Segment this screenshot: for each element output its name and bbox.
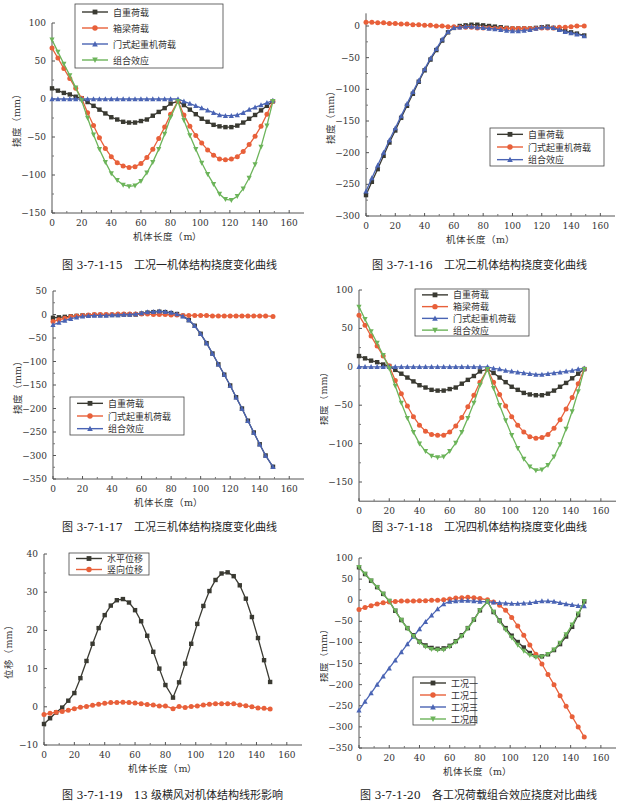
marker-circle-icon <box>187 124 192 129</box>
x-tick-label: 40 <box>99 750 111 760</box>
legend-label: 门式起重机荷载 <box>108 411 171 422</box>
legend-label: 竖向位移 <box>107 564 143 575</box>
marker-square-icon <box>375 360 379 364</box>
marker-square-icon <box>151 114 155 118</box>
marker-circle-icon <box>249 704 254 709</box>
marker-triangle-down-icon <box>557 442 562 447</box>
chart-svg: 020406080100120140160403020100−10机体长度（m）… <box>0 540 320 780</box>
marker-square-icon <box>115 598 119 602</box>
legend-label: 自重荷载 <box>113 7 149 18</box>
legend-label: 箱梁荷载 <box>453 301 489 312</box>
marker-square-icon <box>534 393 538 397</box>
marker-circle-icon <box>375 602 380 607</box>
marker-circle-icon <box>239 313 244 318</box>
marker-circle-icon <box>509 414 514 419</box>
marker-square-icon <box>508 132 513 137</box>
marker-square-icon <box>162 106 166 110</box>
marker-square-icon <box>90 642 94 646</box>
marker-circle-icon <box>257 313 262 318</box>
marker-circle-icon <box>96 702 101 707</box>
x-tick-label: 140 <box>248 750 265 760</box>
marker-triangle-down-icon <box>570 409 575 414</box>
y-tick-label: −10 <box>19 740 38 750</box>
marker-square-icon <box>431 681 436 686</box>
x-tick-label: 40 <box>106 218 118 228</box>
x-tick-label: 60 <box>444 506 456 516</box>
marker-square-icon <box>217 124 221 128</box>
marker-circle-icon <box>417 423 422 428</box>
x-tick-label: 20 <box>384 506 396 516</box>
marker-circle-icon <box>251 313 256 318</box>
legend: 工况一工况二工况三工况四 <box>413 677 478 725</box>
legend-label: 自重荷载 <box>108 398 144 409</box>
marker-square-icon <box>103 613 107 617</box>
marker-circle-icon <box>564 704 569 709</box>
marker-circle-icon <box>441 433 446 438</box>
marker-circle-icon <box>231 701 236 706</box>
y-tick-label: −350 <box>328 743 353 753</box>
marker-circle-icon <box>432 304 437 309</box>
marker-circle-icon <box>582 735 587 740</box>
marker-square-icon <box>435 388 439 392</box>
x-tick-label: 20 <box>76 218 88 228</box>
marker-circle-icon <box>381 20 386 25</box>
marker-circle-icon <box>357 607 362 612</box>
marker-circle-icon <box>127 165 132 170</box>
y-tick-label: −250 <box>335 179 360 189</box>
marker-square-icon <box>576 372 580 376</box>
y-tick-label: 50 <box>342 323 354 333</box>
y-tick-label: −300 <box>22 451 47 461</box>
marker-circle-icon <box>217 157 222 162</box>
marker-triangle-down-icon <box>564 427 569 432</box>
marker-square-icon <box>528 392 532 396</box>
y-tick-label: −300 <box>335 211 360 221</box>
x-tick-label: 120 <box>532 753 549 763</box>
x-tick-label: 0 <box>356 753 362 763</box>
marker-square-icon <box>133 120 137 124</box>
marker-circle-icon <box>235 154 240 159</box>
marker-circle-icon <box>429 432 434 437</box>
marker-circle-icon <box>430 692 435 697</box>
marker-square-icon <box>121 120 125 124</box>
marker-square-icon <box>357 354 361 358</box>
marker-square-icon <box>56 88 60 92</box>
marker-circle-icon <box>243 703 248 708</box>
marker-circle-icon <box>423 429 428 434</box>
marker-circle-icon <box>247 142 252 147</box>
marker-triangle-down-icon <box>252 162 257 167</box>
marker-square-icon <box>244 596 248 600</box>
marker-circle-icon <box>199 141 204 146</box>
figure-caption-5: 图 3-7-1-19 13 级横风对机体结构线形影响 <box>62 786 283 802</box>
marker-circle-icon <box>151 702 156 707</box>
legend-label: 门式起重机荷载 <box>113 39 176 50</box>
marker-triangle-down-icon <box>85 116 90 121</box>
marker-circle-icon <box>399 22 404 27</box>
y-tick-label: −200 <box>328 680 353 690</box>
marker-circle-icon <box>90 703 95 708</box>
marker-square-icon <box>219 571 223 575</box>
marker-triangle-down-icon <box>471 401 476 406</box>
legend: 自重荷载门式起重机荷载组合效应 <box>490 128 604 166</box>
marker-triangle-down-icon <box>235 194 240 199</box>
marker-circle-icon <box>156 136 161 141</box>
x-axis-label: 机体长度（m） <box>133 231 202 242</box>
marker-circle-icon <box>393 599 398 604</box>
x-tick-label: 40 <box>106 484 118 494</box>
marker-circle-icon <box>145 702 150 707</box>
legend-label: 工况四 <box>451 715 478 725</box>
marker-square-icon <box>223 125 227 129</box>
x-tick-label: 120 <box>221 218 238 228</box>
marker-circle-icon <box>50 46 55 51</box>
x-tick-label: 160 <box>592 221 609 231</box>
marker-circle-icon <box>369 20 374 25</box>
marker-circle-icon <box>459 415 464 420</box>
marker-triangle-down-icon <box>399 401 404 406</box>
marker-square-icon <box>253 113 257 117</box>
marker-square-icon <box>491 371 495 375</box>
series-竖向位移 <box>42 700 273 717</box>
marker-circle-icon <box>539 435 544 440</box>
marker-circle-icon <box>363 605 368 610</box>
marker-square-icon <box>238 583 242 587</box>
marker-circle-icon <box>72 706 77 711</box>
y-tick-label: −150 <box>21 208 46 218</box>
